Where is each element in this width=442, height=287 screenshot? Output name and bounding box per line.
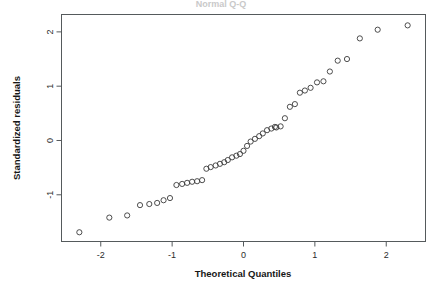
y-tick-label: 1 (45, 84, 55, 89)
y-axis-title: Standardized residuals (11, 76, 22, 180)
x-tick-label: 1 (312, 250, 317, 260)
y-tick-label: -1 (45, 191, 55, 199)
plot-title: Normal Q-Q (196, 0, 247, 9)
x-tick-label: -1 (168, 250, 176, 260)
x-tick-label: 2 (384, 250, 389, 260)
plot-canvas: Normal Q-Q -1012 -2-1012 Theoretical Qua… (0, 0, 442, 287)
plot-background (0, 0, 442, 287)
x-tick-label: -2 (97, 250, 105, 260)
y-tick-label: 2 (45, 29, 55, 34)
y-tick-label: 0 (45, 138, 55, 143)
x-axis-title: Theoretical Quantiles (195, 268, 292, 279)
qq-plot-figure: Normal Q-Q -1012 -2-1012 Theoretical Qua… (0, 0, 442, 287)
x-tick-label: 0 (241, 250, 246, 260)
